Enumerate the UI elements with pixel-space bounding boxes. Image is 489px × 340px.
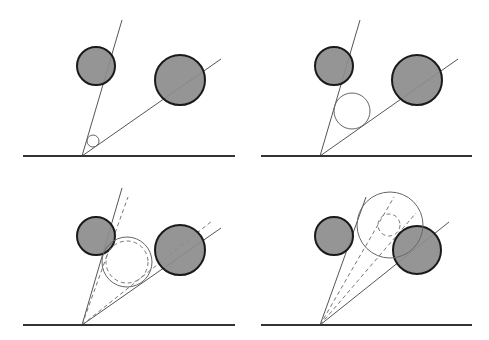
obstacle-disc [77,47,115,85]
obstacle-disc [155,55,205,105]
panel-bottom-left [23,188,235,325]
probe-circle [102,237,152,287]
ray-line [82,20,122,156]
obstacle-disc [315,47,353,85]
probe-circle [334,93,370,129]
ray-line [320,20,360,156]
dashed-ray-line [82,197,128,325]
obstacle-disc [315,217,353,255]
diagram-canvas [0,0,489,340]
dashed-probe-circle [378,214,400,236]
obstacle-disc [392,55,442,105]
obstacle-disc [393,226,441,274]
probe-circle [87,135,99,147]
ray-line [82,188,122,325]
obstacle-disc [77,217,115,255]
probe-circle [357,192,423,258]
panel-top-right [261,20,472,156]
obstacle-disc [155,225,205,275]
panel-bottom-right [261,192,472,325]
panel-top-left [23,20,235,156]
ray-line [320,197,366,325]
